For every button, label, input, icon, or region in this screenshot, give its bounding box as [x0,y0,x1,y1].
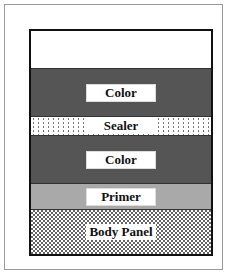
layer-label: Color [86,84,156,102]
paint-layer-stack: Color Sealer Color Primer Body Panel [29,29,213,256]
layer-body-panel: Body Panel [31,209,211,254]
layer-clear-coat [31,31,211,68]
layer-primer: Primer [31,183,211,209]
layer-color-bottom: Color [31,135,211,183]
layer-sealer: Sealer [31,116,211,135]
layer-label: Body Panel [86,224,156,240]
layer-label: Color [86,151,156,169]
layer-label: Primer [86,188,156,206]
layer-label: Sealer [87,118,155,134]
layer-color-top: Color [31,68,211,116]
diagram-frame: Color Sealer Color Primer Body Panel [4,4,223,270]
